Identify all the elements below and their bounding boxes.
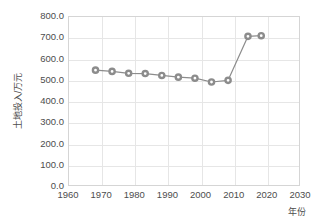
x-axis-tick-label: 1970 <box>91 190 112 200</box>
line-chart: 0.0100.0200.0300.0400.0500.0600.0700.080… <box>0 0 326 224</box>
data-point <box>126 71 131 76</box>
data-point <box>159 73 164 78</box>
y-axis-tick-label: 400.0 <box>40 96 64 106</box>
data-point <box>109 69 114 74</box>
y-axis-tick-label: 100.0 <box>40 160 64 170</box>
y-axis-tick-label: 800.0 <box>40 11 64 21</box>
y-axis-tick-label: 300.0 <box>40 117 64 127</box>
x-axis-title: 年份 <box>288 205 306 218</box>
plot-area <box>68 16 300 186</box>
x-axis-tick-label: 1990 <box>157 190 178 200</box>
x-axis-tick-label: 2010 <box>223 190 244 200</box>
y-axis-tick-label: 700.0 <box>40 32 64 42</box>
series-layer <box>69 17 301 187</box>
data-point <box>93 68 98 73</box>
x-axis-tick-label: 2000 <box>190 190 211 200</box>
data-point <box>245 34 250 39</box>
data-point <box>176 75 181 80</box>
y-axis-tick-label: 500.0 <box>40 75 64 85</box>
x-axis-tick-label: 2020 <box>256 190 277 200</box>
y-axis-title: 土地投入/万元 <box>11 73 24 130</box>
x-axis-tick-label: 1960 <box>57 190 78 200</box>
x-axis-tick-label: 2030 <box>289 190 310 200</box>
y-axis-tick-label: 600.0 <box>40 54 64 64</box>
data-point <box>143 71 148 76</box>
data-point <box>259 33 264 38</box>
data-point <box>192 76 197 81</box>
data-point <box>225 78 230 83</box>
data-point <box>209 79 214 84</box>
x-axis-tick-label: 1980 <box>124 190 145 200</box>
y-axis-tick-label: 200.0 <box>40 139 64 149</box>
